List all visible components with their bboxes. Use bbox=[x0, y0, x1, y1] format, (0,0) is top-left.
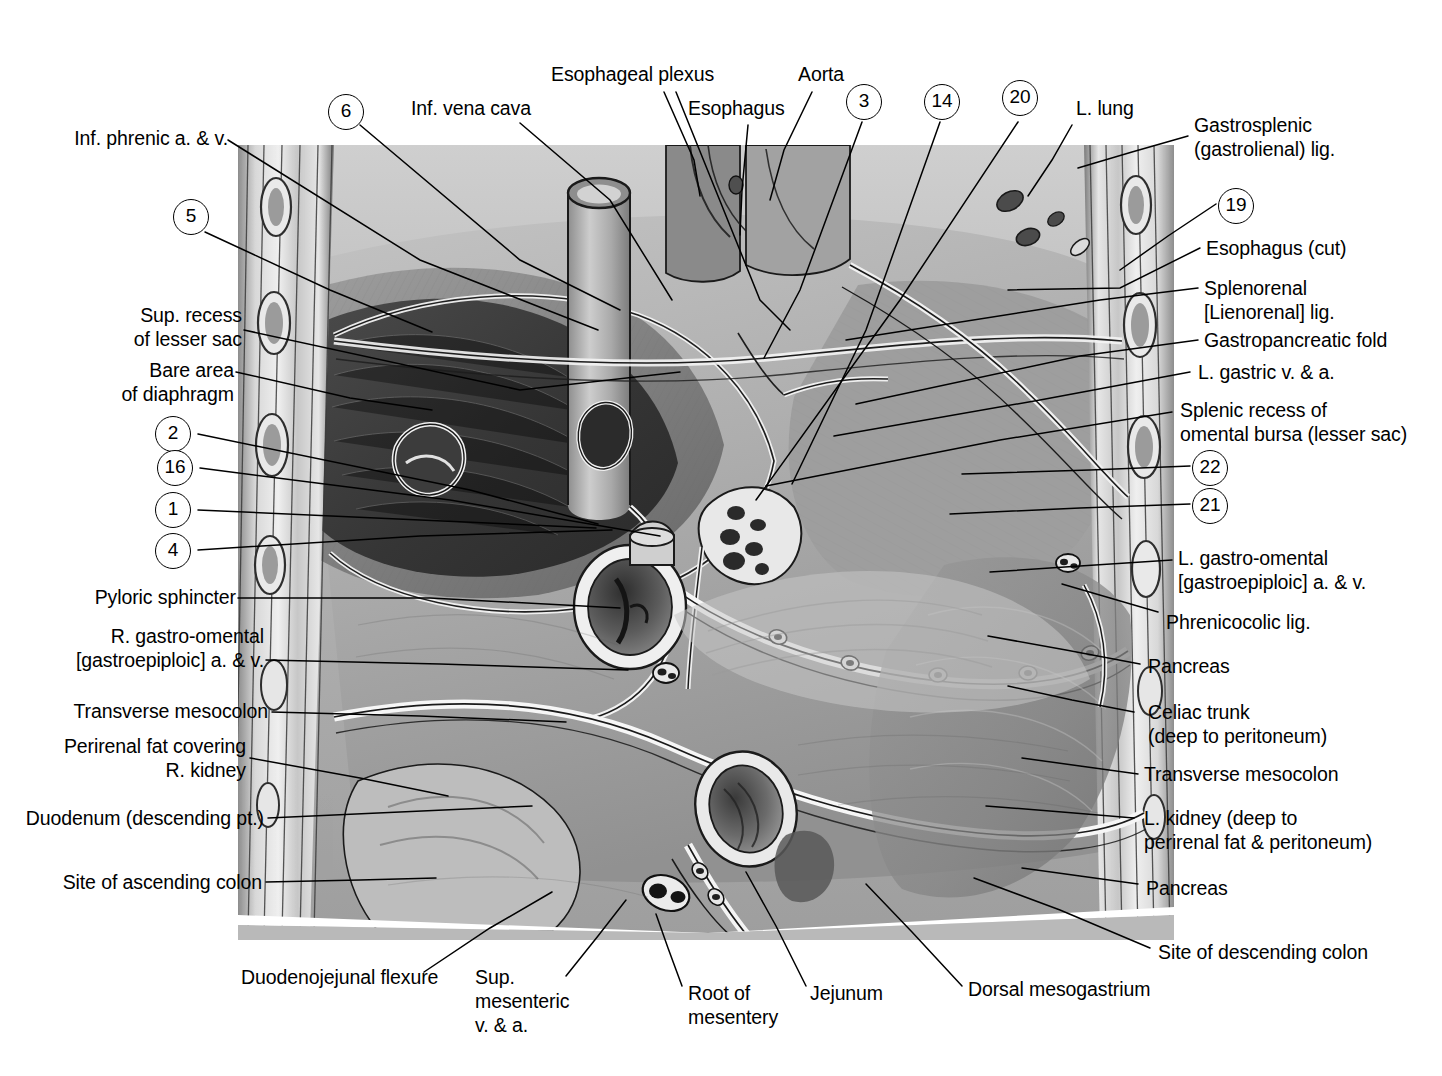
label-celiac-trunk-line2: (deep to peritoneum) bbox=[1148, 724, 1327, 748]
label-root-of-mesentery-line2: mesentery bbox=[688, 1005, 778, 1029]
label-l-lung: L. lung bbox=[1076, 96, 1134, 120]
label-celiac-trunk-line1: Celiac trunk bbox=[1148, 700, 1250, 724]
label-sup-mesenteric-line2: mesenteric bbox=[475, 989, 569, 1013]
label-site-ascending-colon: Site of ascending colon bbox=[0, 870, 262, 894]
label-esophageal-plexus: Esophageal plexus bbox=[551, 62, 714, 86]
label-gastrosplenic-line2: (gastrolienal) lig. bbox=[1194, 137, 1335, 161]
label-esophagus-cut: Esophagus (cut) bbox=[1206, 236, 1347, 260]
figure-page: Esophageal plexus Aorta Esophagus Inf. v… bbox=[0, 0, 1442, 1076]
anatomy-illustration bbox=[238, 145, 1174, 940]
marker-14[interactable]: 14 bbox=[924, 84, 960, 120]
label-aorta: Aorta bbox=[798, 62, 844, 86]
label-pancreas-upper: Pancreas bbox=[1148, 654, 1230, 678]
label-gastrosplenic-line1: Gastrosplenic bbox=[1194, 113, 1312, 137]
marker-16[interactable]: 16 bbox=[157, 450, 193, 486]
marker-19[interactable]: 19 bbox=[1218, 188, 1254, 224]
marker-1[interactable]: 1 bbox=[155, 492, 191, 528]
label-splenic-recess-line1: Splenic recess of bbox=[1180, 398, 1327, 422]
marker-22[interactable]: 22 bbox=[1192, 450, 1228, 486]
label-jejunum: Jejunum bbox=[810, 981, 883, 1005]
label-l-gastro-omental-line2: [gastroepiploic] a. & v. bbox=[1178, 570, 1366, 594]
label-r-gastro-omental-line1: R. gastro-omental bbox=[0, 624, 264, 648]
label-l-gastric: L. gastric v. & a. bbox=[1198, 360, 1335, 384]
label-bare-area-line1: Bare area bbox=[0, 358, 234, 382]
label-sup-recess-line2: of lesser sac bbox=[0, 327, 242, 351]
label-sup-mesenteric-line3: v. & a. bbox=[475, 1013, 528, 1037]
label-l-gastro-omental-line1: L. gastro-omental bbox=[1178, 546, 1328, 570]
label-splenic-recess-line2: omental bursa (lesser sac) bbox=[1180, 422, 1407, 446]
label-transverse-mesocolon-left: Transverse mesocolon bbox=[0, 699, 268, 723]
label-splenorenal-line2: [Lienorenal] lig. bbox=[1204, 300, 1335, 324]
label-inf-vena-cava: Inf. vena cava bbox=[411, 96, 531, 120]
label-bare-area-line2: of diaphragm bbox=[0, 382, 234, 406]
label-perirenal-fat-line2: R. kidney bbox=[0, 758, 246, 782]
marker-5[interactable]: 5 bbox=[173, 199, 209, 235]
label-r-gastro-omental-line2: [gastroepiploic] a. & v. bbox=[0, 648, 264, 672]
marker-6[interactable]: 6 bbox=[328, 94, 364, 130]
marker-2[interactable]: 2 bbox=[155, 416, 191, 452]
marker-20[interactable]: 20 bbox=[1002, 80, 1038, 116]
label-pyloric-sphincter: Pyloric sphincter bbox=[0, 585, 236, 609]
label-root-of-mesentery-line1: Root of bbox=[688, 981, 750, 1005]
label-sup-mesenteric-line1: Sup. bbox=[475, 965, 515, 989]
label-perirenal-fat-line1: Perirenal fat covering bbox=[0, 734, 246, 758]
label-dorsal-mesogastrium: Dorsal mesogastrium bbox=[968, 977, 1150, 1001]
marker-3[interactable]: 3 bbox=[846, 84, 882, 120]
marker-21[interactable]: 21 bbox=[1192, 488, 1228, 524]
anatomy-illustration-artwork bbox=[238, 145, 1174, 940]
label-gastropancreatic-fold: Gastropancreatic fold bbox=[1204, 328, 1387, 352]
label-duodenum-descending: Duodenum (descending pt.) bbox=[0, 806, 264, 830]
label-phrenicocolic: Phrenicocolic lig. bbox=[1166, 610, 1311, 634]
label-esophagus: Esophagus bbox=[688, 96, 785, 120]
label-inf-phrenic: Inf. phrenic a. & v. bbox=[0, 126, 228, 150]
marker-4[interactable]: 4 bbox=[155, 533, 191, 569]
label-splenorenal-line1: Splenorenal bbox=[1204, 276, 1307, 300]
label-l-kidney-line2: perirenal fat & peritoneum) bbox=[1144, 830, 1372, 854]
label-sup-recess-line1: Sup. recess bbox=[0, 303, 242, 327]
label-transverse-mesocolon-right: Transverse mesocolon bbox=[1144, 762, 1339, 786]
label-site-descending-colon: Site of descending colon bbox=[1158, 940, 1368, 964]
label-pancreas-lower: Pancreas bbox=[1146, 876, 1228, 900]
label-l-kidney-line1: L. kidney (deep to bbox=[1144, 806, 1297, 830]
label-duodenojejunal-flexure: Duodenojejunal flexure bbox=[241, 965, 438, 989]
